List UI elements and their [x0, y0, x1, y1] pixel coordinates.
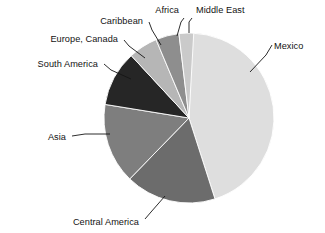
slice-label-south-america: South America: [38, 59, 99, 69]
leader-line-middle-east: [189, 18, 192, 33]
pie-wedges-group: [104, 33, 274, 203]
slice-label-middle-east: Middle East: [196, 5, 245, 15]
leader-line-asia: [72, 134, 110, 136]
slice-label-caribbean: Caribbean: [100, 16, 143, 26]
slice-label-africa: Africa: [155, 5, 180, 15]
pie-chart-svg: Middle EastMexicoCentral AmericaAsiaSout…: [0, 0, 325, 233]
slice-label-central-america: Central America: [73, 217, 140, 227]
slice-label-europe-canada: Europe, Canada: [50, 34, 118, 44]
leader-line-central-america: [145, 196, 165, 219]
leader-line-mexico: [250, 45, 272, 72]
slice-label-asia: Asia: [48, 132, 67, 142]
pie-chart-figure: Middle EastMexicoCentral AmericaAsiaSout…: [0, 0, 325, 233]
slice-label-mexico: Mexico: [274, 41, 303, 51]
